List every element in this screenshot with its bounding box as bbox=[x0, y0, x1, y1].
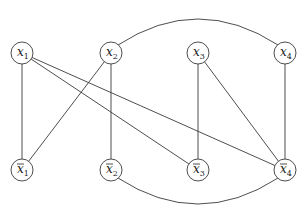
node-nx3: x3 bbox=[187, 159, 209, 181]
node-x1: x1 bbox=[11, 42, 33, 64]
node-nx2: x2 bbox=[100, 159, 122, 181]
node-x3: x3 bbox=[187, 42, 209, 64]
edge-x2-nx1 bbox=[29, 62, 105, 161]
node-x2: x2 bbox=[100, 42, 122, 64]
edge-x2-x4 bbox=[118, 19, 278, 45]
node-nx4: x4 bbox=[274, 159, 296, 181]
graph-diagram: x1x2x3x4x1x2x3x4 bbox=[0, 0, 305, 216]
edges bbox=[22, 19, 285, 204]
node-x4: x4 bbox=[274, 42, 296, 64]
edge-x1-nx3 bbox=[31, 59, 189, 164]
edge-x3-nx4 bbox=[205, 62, 279, 161]
edge-x1-nx4 bbox=[32, 57, 275, 165]
edge-nx2-nx4 bbox=[118, 178, 278, 204]
node-nx1: x1 bbox=[11, 159, 33, 181]
